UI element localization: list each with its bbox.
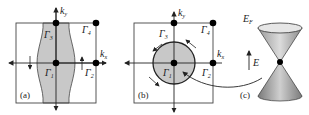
panel-c: E EF (c) [240, 13, 302, 101]
gamma4-label-b: Γ4 [200, 24, 210, 36]
gamma3-label-b: Γ3 [158, 28, 168, 40]
panel-label-c: (c) [240, 90, 250, 100]
kx-label-b: kx [217, 48, 224, 60]
fermi-level-ellipse [258, 23, 302, 33]
gamma2-dot-b [210, 60, 217, 67]
ky-label-b: ky [178, 7, 185, 19]
panel-label-a: (a) [20, 90, 30, 100]
gamma3-dot-b [171, 20, 178, 27]
gamma4-dot-b [210, 20, 217, 27]
lower-dirac-cone [258, 62, 302, 101]
gamma2-dot-a [93, 60, 100, 67]
ky-label-a: ky [60, 5, 67, 17]
figure: ky kx Γ3 Γ4 Γ1 Γ2 (a) ky kx Γ3 Γ4 Γ1 Γ2 … [0, 0, 309, 115]
circulation-arrow [149, 77, 159, 86]
panel-b: ky kx Γ3 Γ4 Γ1 Γ2 (b) [125, 7, 224, 112]
kx-label-a: kx [100, 48, 107, 60]
panel-a: ky kx Γ3 Γ4 Γ1 Γ2 (a) [9, 5, 107, 110]
connector-arrow [183, 72, 262, 87]
gamma4-dot-a [93, 20, 100, 27]
gamma4-label-a: Γ4 [81, 24, 91, 36]
gamma1-dot-b [171, 60, 178, 67]
gamma1-dot-a [53, 60, 60, 67]
gamma2-label-b: Γ2 [201, 67, 211, 79]
gamma2-label-a: Γ2 [84, 67, 94, 79]
gamma3-dot-a [53, 20, 60, 27]
fermi-level-label: EF [242, 13, 253, 25]
energy-label: E [252, 57, 259, 68]
panel-label-b: (b) [138, 90, 149, 100]
dirac-point [277, 59, 283, 65]
